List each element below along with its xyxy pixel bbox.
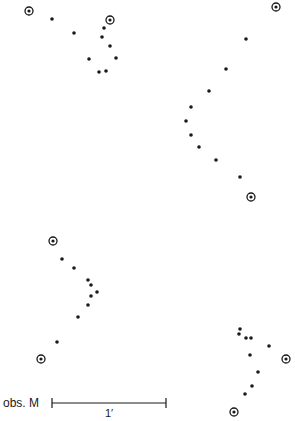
star-point xyxy=(238,175,242,179)
reference-star-icon xyxy=(272,3,280,11)
scale-bar: obs. M1′ xyxy=(3,396,166,419)
star-point xyxy=(244,336,248,340)
star-point xyxy=(102,26,106,30)
star-point xyxy=(243,392,247,396)
star-point xyxy=(108,44,112,48)
star-point xyxy=(207,89,211,93)
reference-star-icon xyxy=(247,193,255,201)
star-point xyxy=(55,340,59,344)
diagram-plot: obs. M1′ xyxy=(0,0,295,421)
star-field-diagram: obs. M1′ xyxy=(0,0,295,421)
star-point xyxy=(72,266,76,270)
star-point xyxy=(248,353,252,357)
star-point xyxy=(238,327,242,331)
star-point xyxy=(256,370,260,374)
star-point xyxy=(95,290,99,294)
star-point xyxy=(249,336,253,340)
panel-bottom-right xyxy=(230,327,290,416)
star-point xyxy=(250,384,254,388)
panel-top-left xyxy=(25,7,118,74)
star-point xyxy=(267,344,271,348)
star-point xyxy=(214,158,218,162)
scale-bar-label: obs. M xyxy=(3,396,39,410)
star-point xyxy=(114,56,118,60)
star-point xyxy=(87,57,91,61)
scale-length-label: 1′ xyxy=(105,407,113,419)
star-point xyxy=(60,257,64,261)
star-point xyxy=(197,145,201,149)
star-point xyxy=(189,133,193,137)
star-point xyxy=(89,283,93,287)
panel-bottom-left xyxy=(37,237,99,363)
star-point xyxy=(86,278,90,282)
reference-star-icon xyxy=(282,355,290,363)
star-point xyxy=(224,67,228,71)
star-point xyxy=(97,70,101,74)
star-point xyxy=(104,69,108,73)
star-point xyxy=(189,105,193,109)
star-point xyxy=(50,17,54,21)
star-point xyxy=(244,37,248,41)
star-point xyxy=(86,303,90,307)
star-point xyxy=(89,294,93,298)
star-point xyxy=(100,35,104,39)
reference-star-icon xyxy=(25,7,33,15)
reference-star-icon xyxy=(230,408,238,416)
panel-top-right xyxy=(184,3,280,201)
reference-star-icon xyxy=(49,237,57,245)
reference-star-icon xyxy=(106,16,114,24)
star-point xyxy=(76,315,80,319)
reference-star-icon xyxy=(37,355,45,363)
star-point xyxy=(72,31,76,35)
star-point xyxy=(184,119,188,123)
star-point xyxy=(237,332,241,336)
